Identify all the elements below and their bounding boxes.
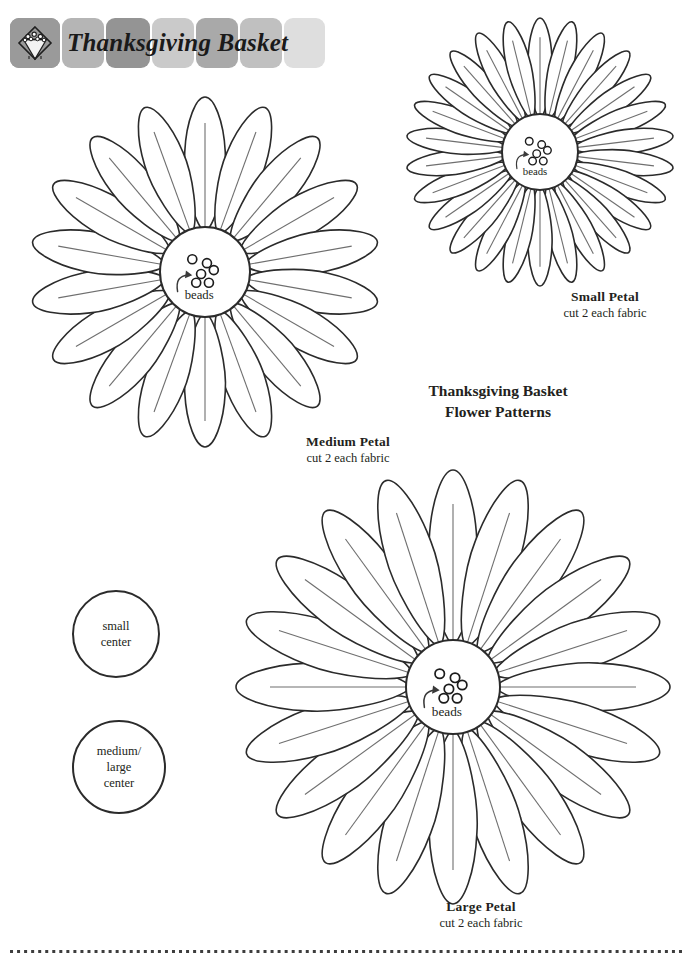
svg-text:beads: beads <box>432 704 462 719</box>
small-center-template-text: smallcenter <box>101 618 132 650</box>
medium-flower-label-name: Medium Petal <box>250 434 446 451</box>
large-flower-label-name: Large Petal <box>383 899 579 916</box>
large-flower-label: Large Petalcut 2 each fabric <box>383 899 579 932</box>
medium-large-center-template-line-2: large <box>97 759 141 775</box>
header-banner: Thanksgiving Basket <box>10 18 325 68</box>
svg-text:beads: beads <box>523 165 547 177</box>
medium-large-center-template-line-1: medium/ <box>97 743 141 759</box>
small-flower: beads <box>404 16 676 288</box>
medium-flower: beads <box>17 84 393 460</box>
small-flower-label-name: Small Petal <box>507 289 692 306</box>
small-center-template-line-2: center <box>101 634 132 650</box>
svg-text:beads: beads <box>185 288 214 302</box>
large-flower: beads <box>217 451 689 923</box>
small-flower-label-sub: cut 2 each fabric <box>507 306 692 322</box>
page-title-line1: Thanksgiving Basket <box>398 381 598 402</box>
page-title: Thanksgiving Basket Flower Patterns <box>398 381 598 423</box>
medium-large-center-template-line-3: center <box>97 775 141 791</box>
small-center-template: smallcenter <box>72 590 160 678</box>
header-tile-7 <box>284 18 325 68</box>
page-title-line2: Flower Patterns <box>398 402 598 423</box>
header-title: Thanksgiving Basket <box>67 18 288 68</box>
basket-diamond-logo-icon <box>10 18 60 68</box>
medium-large-center-template-text: medium/largecenter <box>97 743 141 791</box>
small-center-template-line-1: small <box>101 618 132 634</box>
medium-large-center-template: medium/largecenter <box>72 720 166 814</box>
footer-dotted-rule <box>8 940 684 944</box>
small-flower-label: Small Petalcut 2 each fabric <box>507 289 692 322</box>
large-flower-label-sub: cut 2 each fabric <box>383 916 579 932</box>
